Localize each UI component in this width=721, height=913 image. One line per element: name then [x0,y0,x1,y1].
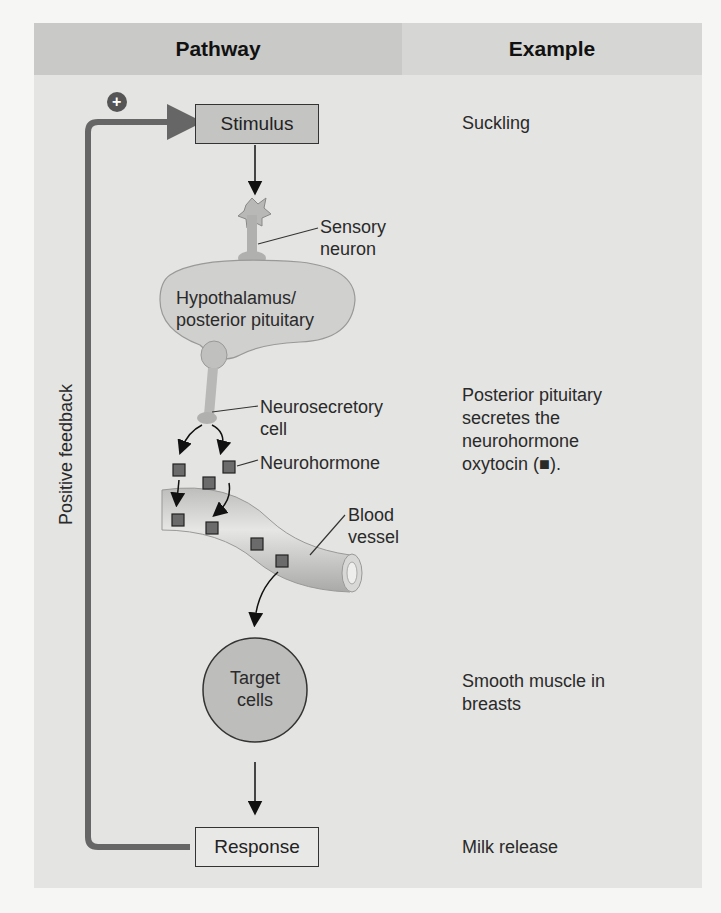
example-stimulus: Suckling [462,112,530,135]
sensory-neuron-label: Sensoryneuron [320,216,386,260]
target-cells-label: Targetcells [230,667,280,711]
hypothalamus-label: Hypothalamus/posterior pituitary [176,287,314,331]
neurohormone-label: Neurohormone [260,452,380,474]
example-response: Milk release [462,836,558,859]
blood-vessel-label: Bloodvessel [348,504,399,548]
example-target: Smooth muscle inbreasts [462,670,605,716]
stimulus-box: Stimulus [195,104,319,144]
positive-sign: + [112,91,121,113]
neurosecretory-cell-label: Neurosecretorycell [260,396,383,440]
example-secretion: Posterior pituitarysecretes theneurohorm… [462,384,602,476]
positive-feedback-label: Positive feedback [56,384,77,525]
response-box: Response [195,827,319,867]
